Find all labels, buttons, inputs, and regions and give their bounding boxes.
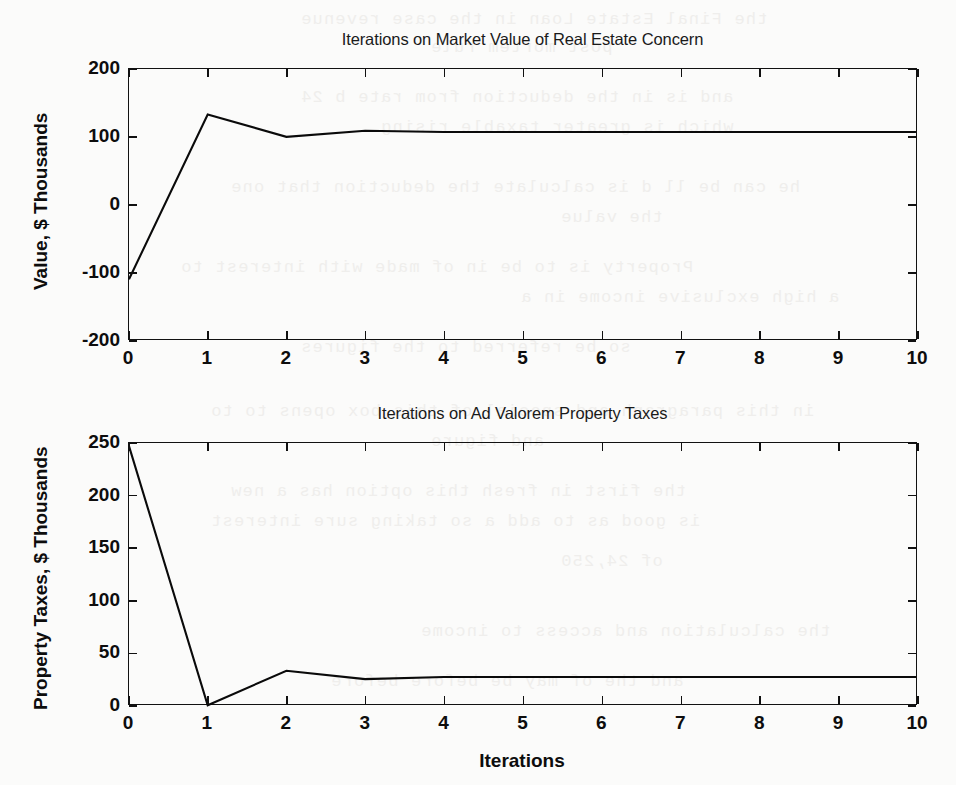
x-axis-label-iterations: Iterations [479,750,565,772]
plot-canvas-property-taxes [129,443,916,705]
y-tick-label: 200 [88,484,120,506]
data-series-market-value [129,114,916,279]
y-tick-mark [908,340,916,342]
x-tick-mark [128,331,130,339]
y-tick-label: 100 [88,125,120,147]
x-tick-mark [207,69,209,77]
x-tick-label: 9 [833,347,844,369]
x-tick-label: 2 [281,712,292,734]
x-tick-label: 1 [202,347,213,369]
y-tick-mark [908,547,916,549]
x-tick-mark [838,443,840,451]
y-tick-mark [908,653,916,655]
chart-title-property-taxes: Iterations on Ad Valorem Property Taxes [128,404,917,423]
x-tick-mark [917,443,919,451]
y-tick-mark [908,442,916,444]
plot-area-property-taxes [128,442,917,705]
x-tick-label: 6 [596,712,607,734]
x-tick-mark [286,696,288,704]
x-tick-mark [681,69,683,77]
x-tick-mark [759,69,761,77]
x-tick-mark [838,696,840,704]
x-tick-mark [128,69,130,77]
x-tick-mark [365,331,367,339]
x-tick-label: 8 [754,347,765,369]
x-tick-mark [523,69,525,77]
x-tick-label: 1 [202,712,213,734]
x-tick-mark [681,443,683,451]
x-tick-mark [838,69,840,77]
y-tick-mark [129,600,137,602]
y-tick-mark [908,204,916,206]
x-tick-mark [917,331,919,339]
x-tick-mark [681,696,683,704]
y-tick-label: 150 [88,536,120,558]
x-tick-mark [838,331,840,339]
x-tick-mark [286,331,288,339]
x-tick-label: 7 [675,347,686,369]
x-tick-mark [917,69,919,77]
x-tick-label: 10 [906,712,927,734]
x-tick-mark [523,696,525,704]
y-tick-mark [908,68,916,70]
x-tick-label: 5 [517,712,528,734]
x-tick-mark [128,443,130,451]
x-tick-label: 4 [438,347,449,369]
x-tick-label: 3 [359,347,370,369]
x-tick-label: 8 [754,712,765,734]
x-tick-mark [602,443,604,451]
x-tick-label: 0 [123,347,134,369]
y-tick-label: 100 [88,589,120,611]
x-tick-label: 0 [123,712,134,734]
x-tick-label: 6 [596,347,607,369]
y-tick-mark [908,705,916,707]
y-tick-mark [129,653,137,655]
x-tick-mark [444,331,446,339]
x-tick-mark [365,443,367,451]
x-tick-mark [365,696,367,704]
x-tick-mark [207,696,209,704]
x-tick-mark [602,69,604,77]
x-tick-mark [523,443,525,451]
x-tick-mark [444,69,446,77]
y-tick-label: 200 [88,57,120,79]
y-tick-mark [129,136,137,138]
y-axis-label-property-taxes: Property Taxes, $ Thousands [30,446,52,710]
x-tick-mark [444,696,446,704]
y-tick-mark [908,600,916,602]
x-tick-mark [759,331,761,339]
y-tick-mark [129,705,137,707]
x-tick-label: 10 [906,347,927,369]
chart-title-market-value: Iterations on Market Value of Real Estat… [128,30,917,49]
x-tick-mark [681,331,683,339]
x-tick-mark [759,443,761,451]
y-tick-label: -200 [82,329,120,351]
x-tick-mark [286,443,288,451]
x-tick-mark [207,443,209,451]
y-tick-label: 50 [99,641,120,663]
y-tick-label: 250 [88,431,120,453]
x-tick-mark [917,696,919,704]
y-tick-mark [129,204,137,206]
figure-property-taxes: Iterations on Ad Valorem Property Taxes … [0,392,956,785]
x-tick-label: 9 [833,712,844,734]
y-tick-mark [129,442,137,444]
plot-canvas-market-value [129,69,916,340]
x-tick-mark [128,696,130,704]
y-tick-label: 0 [109,193,120,215]
x-tick-mark [444,443,446,451]
x-tick-mark [207,331,209,339]
y-tick-mark [129,340,137,342]
x-tick-mark [523,331,525,339]
x-tick-label: 5 [517,347,528,369]
y-axis-label-market-value: Value, $ Thousands [30,113,52,290]
y-tick-mark [129,495,137,497]
figure-market-value: Iterations on Market Value of Real Estat… [0,0,956,392]
y-tick-mark [129,68,137,70]
x-tick-label: 7 [675,712,686,734]
x-tick-label: 4 [438,712,449,734]
x-tick-mark [365,69,367,77]
x-tick-label: 2 [281,347,292,369]
y-tick-mark [908,495,916,497]
y-tick-label: -100 [82,261,120,283]
